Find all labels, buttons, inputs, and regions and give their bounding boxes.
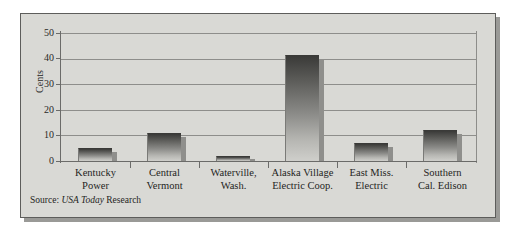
chart-panel: Cents 50 40 30 20 10 0 <box>20 13 496 218</box>
gridline-10 <box>61 135 476 136</box>
bar-central-vermont[interactable] <box>147 133 181 161</box>
y-tick-label-30: 30 <box>24 79 54 89</box>
y-tick-label-50: 50 <box>24 28 54 38</box>
x-axis-label-line2: Cal. Edison <box>406 179 479 192</box>
plot-area <box>61 33 476 161</box>
plot-right-border <box>476 31 477 163</box>
y-tick-label-20: 20 <box>24 105 54 115</box>
x-axis-label-line2: Electric Coop. <box>266 179 339 192</box>
x-axis-label-line1: East Miss. <box>350 167 394 178</box>
figure-root: Cents 50 40 30 20 10 0 <box>0 0 513 237</box>
bar-alaska-village-electric-coop[interactable] <box>285 55 319 161</box>
y-axis-tick-labels: 50 40 30 20 10 0 <box>21 14 54 219</box>
source-suffix: Research <box>106 195 141 205</box>
x-axis-label-line2: Power <box>61 179 130 192</box>
x-axis-label-line1: Alaska Village <box>272 167 334 178</box>
source-note: Source: USA Today Research <box>30 195 141 205</box>
bar-southern-cal-edison[interactable] <box>423 130 457 161</box>
x-axis-label-line1: Southern <box>424 167 462 178</box>
x-axis-label-line2: Wash. <box>199 179 268 192</box>
gridline-40 <box>61 59 476 60</box>
source-prefix: Source: <box>30 195 59 205</box>
x-axis-label-alaska-village-electric-coop: Alaska Village Electric Coop. <box>266 166 339 192</box>
gridline-50 <box>61 33 476 34</box>
bar-waterville-wash[interactable] <box>216 156 250 161</box>
x-axis-label-line1: Kentucky <box>75 167 116 178</box>
bar-kentucky-power[interactable] <box>78 148 112 161</box>
x-axis-label-east-miss-electric: East Miss. Electric <box>337 166 406 192</box>
x-axis-label-southern-cal-edison: Southern Cal. Edison <box>406 166 479 192</box>
x-axis-label-line1: Central <box>149 167 180 178</box>
y-tick-label-0: 0 <box>24 156 54 166</box>
x-axis-label-line1: Waterville, <box>210 167 256 178</box>
x-axis-label-waterville-wash: Waterville, Wash. <box>199 166 268 192</box>
y-tick-label-40: 40 <box>24 53 54 63</box>
y-tick-label-10: 10 <box>24 130 54 140</box>
x-axis-label-central-vermont: Central Vermont <box>130 166 199 192</box>
x-axis-label-kentucky-power: Kentucky Power <box>61 166 130 192</box>
gridline-20 <box>61 110 476 111</box>
x-axis-label-line2: Electric <box>337 179 406 192</box>
bar-east-miss-electric[interactable] <box>354 143 388 161</box>
x-axis-label-line2: Vermont <box>130 179 199 192</box>
source-publication: USA Today <box>61 195 104 205</box>
gridline-30 <box>61 84 476 85</box>
